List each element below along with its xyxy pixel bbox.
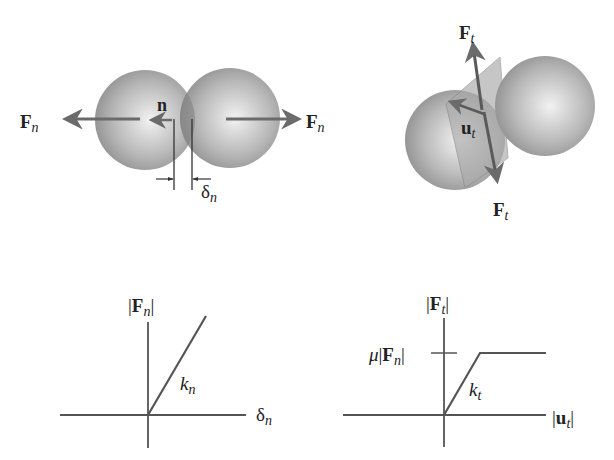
tangential-contact-diagram: Ft Ft ut	[405, 22, 595, 223]
tangential-force-graph: |Ft| |ut| kt μ|Fn|	[343, 293, 574, 447]
y-axis-label: |Ft|	[426, 293, 449, 317]
normal-label: n	[157, 95, 167, 115]
x-axis-label: |ut|	[552, 407, 574, 431]
force-label-right: Fn	[306, 111, 325, 135]
overlap-label: δn	[201, 181, 217, 205]
y-axis-label: |Fn|	[128, 295, 154, 319]
x-axis-label: δn	[256, 404, 272, 428]
contact-model-figure: Fn Fn n δn Ft Ft ut |Fn| δn kn |Ft| |ut|	[0, 0, 614, 460]
friction-curve	[444, 353, 546, 415]
slope-label: kn	[180, 373, 195, 397]
slope-label: kt	[469, 379, 482, 403]
friction-cap-label: μ|Fn|	[368, 344, 405, 368]
tangential-force-label-top: Ft	[459, 22, 476, 46]
tangential-force-label-bottom: Ft	[493, 199, 510, 223]
sphere-right	[495, 56, 595, 156]
normal-force-graph: |Fn| δn kn	[60, 295, 272, 448]
force-label-left: Fn	[20, 111, 39, 135]
normal-contact-diagram: Fn Fn n δn	[20, 68, 325, 205]
stiffness-line	[148, 316, 206, 415]
